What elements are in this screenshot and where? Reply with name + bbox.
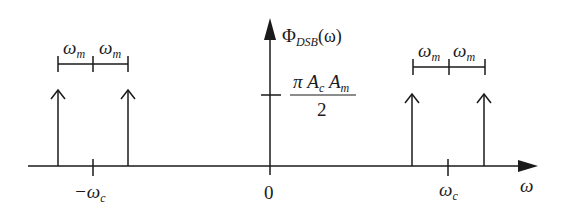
spacing-label-2: ωm <box>99 38 121 60</box>
y-axis-label: ΦDSB(ω) <box>282 26 342 48</box>
tick-label-zero: 0 <box>264 183 274 202</box>
x-axis-label: ω <box>520 176 533 195</box>
spacing-label-1: ωm <box>63 38 85 60</box>
amplitude-denominator: 2 <box>317 100 327 119</box>
amplitude-numerator: π Ac Am <box>293 72 349 94</box>
y-axis-arrowhead <box>264 18 276 40</box>
spacing-label-3: ωm <box>418 41 440 63</box>
spacing-label-4: ωm <box>453 41 475 63</box>
dsb-spectrum-diagram: ΦDSB(ω) π Ac Am 2 ωm ωm ωm ωm −ωc 0 ωc ω <box>0 0 568 210</box>
tick-label-wc: ωc <box>439 180 458 202</box>
tick-label-neg-wc: −ωc <box>74 182 106 204</box>
x-axis-arrowhead <box>518 160 538 172</box>
